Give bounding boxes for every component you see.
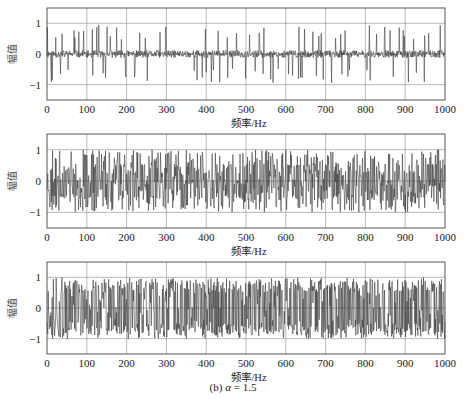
x-tick-label: 700 (317, 231, 334, 243)
x-tick-label: 900 (397, 103, 414, 115)
x-tick-label: 800 (357, 357, 374, 369)
x-tick-label: 600 (278, 357, 295, 369)
y-tick-label: 1 (36, 17, 42, 29)
x-tick-label: 1000 (434, 231, 457, 243)
x-tick-label: 500 (238, 357, 255, 369)
x-tick-label: 0 (44, 357, 50, 369)
y-tick-label: 1 (36, 271, 42, 283)
x-tick-label: 100 (79, 103, 96, 115)
x-tick-label: 400 (198, 357, 215, 369)
x-tick-label: 100 (79, 231, 96, 243)
y-tick-label: −1 (29, 79, 41, 91)
x-tick-label: 300 (158, 357, 175, 369)
x-tick-label: 200 (118, 103, 135, 115)
y-tick-label: 1 (36, 144, 42, 156)
x-tick-label: 900 (397, 357, 414, 369)
x-tick-label: 800 (357, 103, 374, 115)
x-tick-label: 0 (44, 103, 50, 115)
y-tick-label: 0 (36, 302, 42, 314)
x-tick-label: 300 (158, 231, 175, 243)
y-axis-label: 幅值 (6, 171, 18, 191)
x-tick-label: 900 (397, 231, 414, 243)
x-tick-label: 500 (238, 231, 255, 243)
x-axis-label: 频率/Hz (231, 117, 267, 129)
y-axis-label: 幅值 (6, 44, 18, 64)
plot-panel-3: 01002003004005006007008009001000−101频率/H… (6, 262, 457, 383)
x-tick-label: 1000 (434, 103, 457, 115)
x-tick-label: 500 (238, 103, 255, 115)
plot-panel-2: 01002003004005006007008009001000−101频率/H… (6, 134, 457, 257)
x-tick-label: 200 (118, 231, 135, 243)
plot-panel-1: 01002003004005006007008009001000−101频率/H… (6, 8, 457, 129)
x-tick-label: 1000 (434, 357, 457, 369)
x-tick-label: 400 (198, 103, 215, 115)
caption-prefix: (b) (210, 381, 226, 393)
y-tick-label: −1 (29, 333, 41, 345)
chart-figure: 01002003004005006007008009001000−101频率/H… (0, 0, 466, 399)
x-tick-label: 200 (118, 357, 135, 369)
y-tick-label: 0 (36, 48, 42, 60)
y-tick-label: 0 (36, 175, 42, 187)
x-axis-label: 频率/Hz (231, 245, 267, 257)
x-tick-label: 600 (278, 103, 295, 115)
x-tick-label: 300 (158, 103, 175, 115)
figure-caption: (b) α = 1.5 (0, 381, 466, 393)
y-tick-label: −1 (29, 206, 41, 218)
x-tick-label: 400 (198, 231, 215, 243)
x-tick-label: 0 (44, 231, 50, 243)
x-tick-label: 800 (357, 231, 374, 243)
x-tick-label: 700 (317, 103, 334, 115)
y-axis-label: 幅值 (6, 298, 18, 318)
caption-suffix: = 1.5 (231, 381, 256, 393)
x-tick-label: 700 (317, 357, 334, 369)
x-tick-label: 100 (79, 357, 96, 369)
x-tick-label: 600 (278, 231, 295, 243)
